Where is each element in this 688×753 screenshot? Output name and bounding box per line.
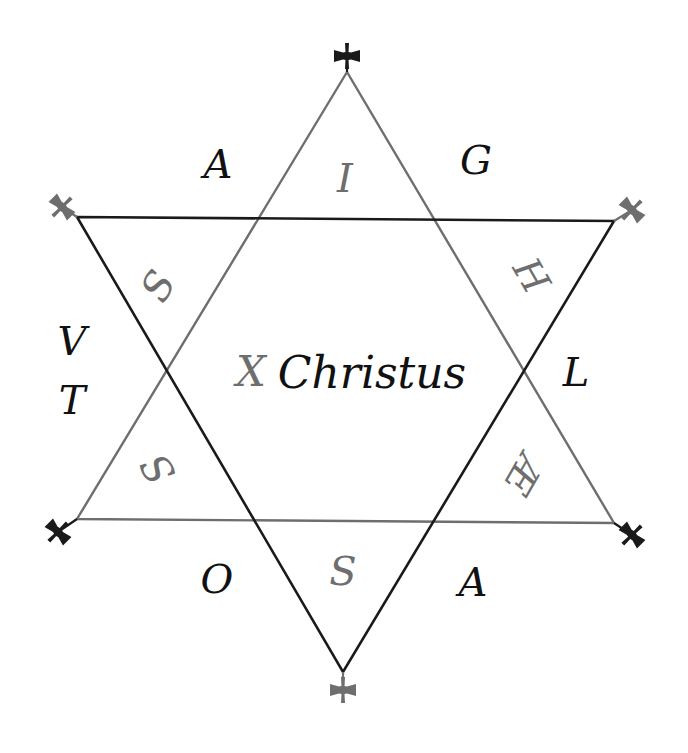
letter-outer-left-lower: T (59, 377, 89, 423)
letter-inner-bottom: S (329, 548, 356, 594)
letter-outer-left-upper: V (58, 318, 91, 364)
letter-inner-top: I (336, 155, 354, 201)
letter-inner-upper-right: H (503, 249, 559, 301)
letter-inner-lower-left: S (131, 446, 185, 493)
letter-center-x: X (233, 347, 268, 396)
letter-outer-right: L (562, 349, 590, 395)
letter-outer-bottom-left: O (201, 556, 234, 602)
cross-top-right-icon (614, 192, 651, 229)
hexagram-diagram: A G V T L O A I S H S Æ S X Christus (0, 0, 688, 753)
letter-inner-lower-right: Æ (494, 444, 554, 503)
cross-top-icon (334, 43, 360, 69)
letter-inner-upper-left: S (131, 263, 185, 310)
letter-outer-bottom-right: A (455, 559, 488, 605)
cross-bottom-right-icon (614, 517, 651, 554)
letter-outer-top-right: G (460, 137, 492, 183)
cross-bottom-icon (330, 677, 356, 703)
letter-outer-top-left: A (200, 141, 233, 187)
cross-bottom-left-icon (40, 514, 77, 551)
cross-top-left-icon (44, 189, 81, 226)
center-word-christus: Christus (278, 347, 466, 398)
